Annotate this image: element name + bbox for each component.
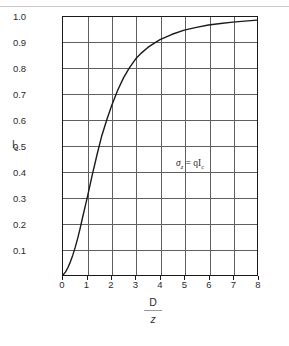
y-tick-label-0_5: 0.5 (0, 142, 26, 152)
equation-annotation: σz = qIc (176, 158, 204, 170)
x-tick-label-1: 1 (79, 280, 95, 290)
annotation-equals: = (186, 158, 191, 168)
x-axis-title-denominator: z (142, 313, 164, 325)
plot-area (62, 16, 258, 276)
y-tick-label-0_7: 0.7 (0, 90, 26, 100)
annotation-sigma-subscript: z (181, 163, 184, 170)
x-tick-label-0: 0 (54, 280, 70, 290)
y-tick-label-0_2: 0.2 (0, 220, 26, 230)
y-tick-label-0_9: 0.9 (0, 38, 26, 48)
y-tick-label-0_4: 0.4 (0, 168, 26, 178)
y-tick-label-0_6: 0.6 (0, 116, 26, 126)
figure-container: Ic 1.0 0.9 0.8 0.7 0.6 0.5 0.4 0.3 0.2 0… (0, 0, 289, 346)
series-ic-curve (63, 20, 257, 275)
data-curve-svg (63, 17, 257, 275)
x-tick-label-3: 3 (127, 280, 143, 290)
y-tick-label-0_8: 0.8 (0, 64, 26, 74)
x-tick-label-2: 2 (103, 280, 119, 290)
fraction-bar (144, 310, 162, 311)
top-divider-rule (0, 6, 289, 7)
y-tick-label-0_3: 0.3 (0, 194, 26, 204)
x-tick-label-5: 5 (176, 280, 192, 290)
x-tick-label-7: 7 (225, 280, 241, 290)
x-axis-title-numerator: D (142, 296, 164, 308)
x-tick-label-6: 6 (201, 280, 217, 290)
x-tick-label-8: 8 (250, 280, 266, 290)
x-axis-title: D z (142, 296, 164, 325)
y-tick-label-0_1: 0.1 (0, 246, 26, 256)
y-tick-label-1_0: 1.0 (0, 12, 26, 22)
x-tick-label-4: 4 (152, 280, 168, 290)
annotation-rhs-subscript: c (201, 163, 204, 170)
